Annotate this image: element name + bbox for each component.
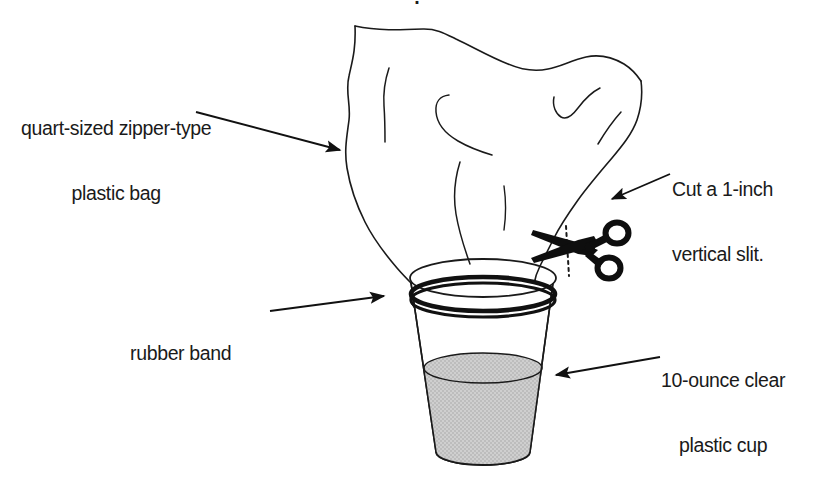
label-plastic-cup-line-2: plastic cup	[661, 435, 785, 457]
label-plastic-bag-line-1: quart-sized zipper-type	[21, 118, 211, 140]
label-slit-line-2: vertical slit.	[672, 244, 773, 266]
bag-callout-line	[196, 112, 340, 150]
label-rubber-band: rubber band	[130, 300, 231, 408]
plastic-bag-crease-2	[436, 95, 492, 155]
label-slit: Cut a 1-inch vertical slit.	[672, 136, 773, 308]
label-plastic-cup-line-1: 10-ounce clear	[661, 370, 785, 392]
scissors-upper-ring	[606, 223, 629, 244]
plastic-bag-outline	[346, 26, 414, 286]
plastic-bag-crease-5	[455, 162, 470, 264]
plastic-bag-crease-3	[553, 88, 600, 118]
label-plastic-bag-line-2: plastic bag	[21, 183, 211, 205]
label-rubber-band-line-1: rubber band	[130, 343, 231, 365]
label-slit-line-1: Cut a 1-inch	[672, 179, 773, 201]
plastic-cup	[410, 259, 556, 465]
slit-callout-line	[612, 174, 670, 199]
plastic-bag-crease-1	[384, 68, 389, 142]
plastic-bag-crease-6	[504, 186, 506, 230]
label-plastic-bag: quart-sized zipper-type plastic bag	[21, 75, 211, 247]
water-surface	[424, 353, 542, 383]
label-plastic-cup: 10-ounce clear plastic cup	[661, 327, 785, 488]
scissors	[531, 223, 629, 279]
plastic-bag-top-edge	[355, 26, 641, 81]
figure-root: .	[0, 0, 834, 488]
cup-callout-line	[556, 357, 660, 375]
scissors-lower-ring	[598, 258, 621, 279]
plastic-bag-crease-4	[598, 112, 621, 144]
rubber-band-callout-line	[270, 296, 384, 311]
